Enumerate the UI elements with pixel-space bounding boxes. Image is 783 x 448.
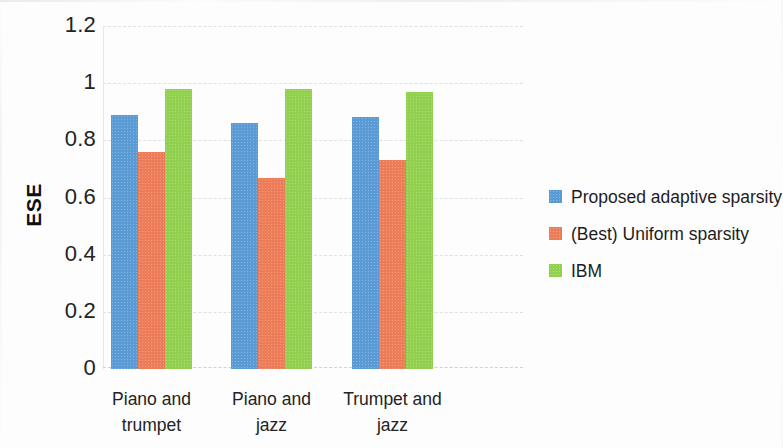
bar-texture <box>379 160 406 369</box>
legend-swatch-icon <box>549 190 562 203</box>
legend-swatch-icon <box>549 227 562 240</box>
bar-texture <box>285 89 312 369</box>
legend-swatch-texture <box>549 190 562 203</box>
bar <box>285 89 312 369</box>
y-axis-tick-label: 1.2 <box>12 14 96 36</box>
bar-texture <box>406 92 433 369</box>
chart-legend: Proposed adaptive sparsity(Best) Uniform… <box>549 178 779 289</box>
x-axis-tick-label: Trumpet andjazz <box>318 386 468 438</box>
scan-edge-left <box>0 0 2 448</box>
bar <box>138 152 165 369</box>
legend-label: IBM <box>571 261 602 281</box>
bar-texture <box>165 89 192 369</box>
bar-texture <box>352 117 379 369</box>
legend-label: (Best) Uniform sparsity <box>571 224 749 244</box>
bar <box>379 160 406 369</box>
y-axis-tick-label: 0 <box>12 357 96 379</box>
bar-chart-figure: ESE 00.20.40.60.811.2 Piano andtrumpetPi… <box>0 0 783 448</box>
legend-swatch-texture <box>549 264 562 277</box>
legend-swatch-texture <box>549 227 562 240</box>
bar <box>258 178 285 370</box>
x-axis-tick-labels: Piano andtrumpetPiano andjazzTrumpet and… <box>103 386 523 446</box>
x-axis-tick-label-line: Trumpet and <box>318 386 468 412</box>
bar-texture <box>231 123 258 369</box>
bar-texture <box>138 152 165 369</box>
y-axis-tick-label: 0.6 <box>12 186 96 208</box>
bar-texture <box>111 115 138 369</box>
bar-group <box>111 26 192 369</box>
bar <box>406 92 433 369</box>
legend-item[interactable]: IBM <box>549 252 779 289</box>
scan-edge-top <box>0 0 783 2</box>
legend-label: Proposed adaptive sparsity <box>571 187 782 207</box>
x-axis-tick-label-line: jazz <box>318 412 468 438</box>
legend-item[interactable]: Proposed adaptive sparsity <box>549 178 779 215</box>
bar <box>111 115 138 369</box>
bar <box>352 117 379 369</box>
bar-groups <box>103 26 523 369</box>
y-axis-tick-label: 0.4 <box>12 243 96 265</box>
bar-texture <box>258 178 285 370</box>
y-axis-tick-label: 0.8 <box>12 128 96 150</box>
bar-group <box>231 26 312 369</box>
plot-area <box>103 26 523 369</box>
bar-group <box>352 26 433 369</box>
bar <box>165 89 192 369</box>
legend-item[interactable]: (Best) Uniform sparsity <box>549 215 779 252</box>
y-axis-tick-labels: 00.20.40.60.811.2 <box>8 26 96 369</box>
y-axis-tick-label: 0.2 <box>12 300 96 322</box>
legend-swatch-icon <box>549 264 562 277</box>
bar <box>231 123 258 369</box>
y-axis-tick-label: 1 <box>12 71 96 93</box>
